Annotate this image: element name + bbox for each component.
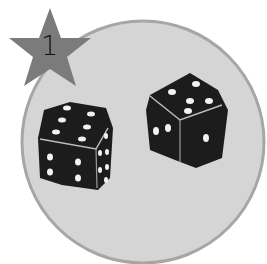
left-die bbox=[38, 102, 113, 190]
badge-number: 1 bbox=[41, 31, 55, 61]
